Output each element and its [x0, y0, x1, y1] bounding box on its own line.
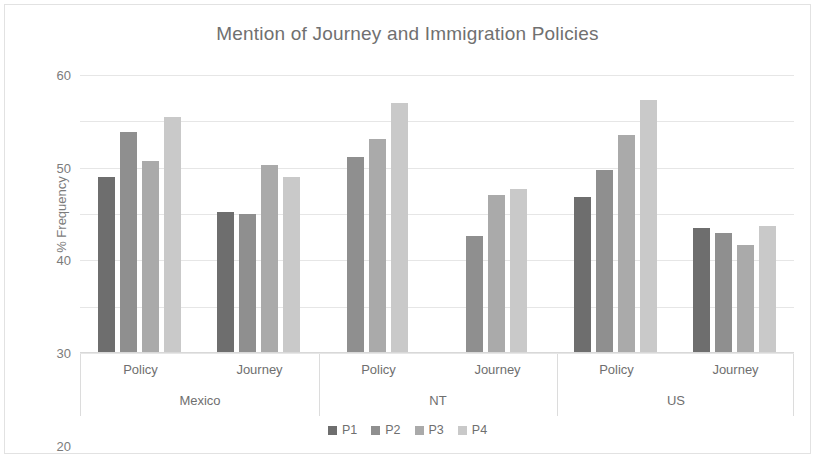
chart-legend: P1P2P3P4: [5, 423, 810, 437]
bar-US-Journey-P1: [693, 228, 710, 353]
category-label-US-Policy: Policy: [557, 354, 676, 385]
bar-NT-Journey-P4: [510, 189, 527, 353]
legend-swatch-P3: [415, 426, 424, 435]
bar-NT-Journey-P2: [466, 236, 483, 353]
legend-label-P2: P2: [385, 423, 400, 437]
bar-Mexico-Policy-P2: [120, 132, 137, 353]
bar-Mexico-Policy-P1: [98, 177, 115, 353]
bar-series-container: [80, 75, 794, 353]
category-axis: PolicyJourneyPolicyJourneyPolicyJourneyM…: [80, 354, 794, 416]
group-label-NT: NT: [319, 385, 557, 416]
legend-swatch-P1: [328, 426, 337, 435]
category-label-NT-Journey: Journey: [438, 354, 557, 385]
y-axis-tick-40: 40: [57, 253, 71, 268]
legend-swatch-P4: [458, 426, 467, 435]
y-axis-title-label: % Frequency: [54, 176, 69, 253]
bar-Mexico-Policy-P3: [142, 161, 159, 353]
y-axis-tick-50: 50: [57, 160, 71, 175]
category-label-NT-Policy: Policy: [319, 354, 438, 385]
legend-label-P3: P3: [429, 423, 444, 437]
axis-baseline: [80, 352, 794, 353]
bar-US-Policy-P4: [640, 100, 657, 353]
chart-title: Mention of Journey and Immigration Polic…: [5, 23, 810, 45]
legend-item-P3[interactable]: P3: [415, 423, 444, 437]
legend-label-P4: P4: [472, 423, 487, 437]
legend-item-P1[interactable]: P1: [328, 423, 357, 437]
bar-Mexico-Journey-P4: [283, 177, 300, 353]
bar-US-Policy-P2: [596, 170, 613, 353]
bar-Mexico-Policy-P4: [164, 117, 181, 353]
bar-US-Journey-P3: [737, 245, 754, 353]
chart-container: Mention of Journey and Immigration Polic…: [4, 4, 811, 454]
y-axis-tick-20: 20: [57, 438, 71, 453]
bar-US-Journey-P2: [715, 233, 732, 353]
bar-NT-Policy-P3: [369, 139, 386, 353]
plot-area: 0102030405060: [80, 75, 794, 353]
bar-US-Policy-P1: [574, 197, 591, 353]
bar-US-Journey-P4: [759, 226, 776, 353]
bar-NT-Journey-P3: [488, 195, 505, 353]
bar-US-Policy-P3: [618, 135, 635, 353]
category-label-Mexico-Journey: Journey: [200, 354, 319, 385]
legend-item-P2[interactable]: P2: [371, 423, 400, 437]
bar-Mexico-Journey-P3: [261, 165, 278, 353]
bar-NT-Policy-P4: [391, 103, 408, 353]
bar-NT-Policy-P2: [347, 157, 364, 353]
legend-item-P4[interactable]: P4: [458, 423, 487, 437]
group-label-US: US: [557, 385, 795, 416]
category-label-Mexico-Policy: Policy: [81, 354, 200, 385]
legend-swatch-P2: [371, 426, 380, 435]
bar-Mexico-Journey-P1: [217, 212, 234, 353]
y-axis-tick-30: 30: [57, 346, 71, 361]
y-axis-tick-60: 60: [57, 68, 71, 83]
bar-Mexico-Journey-P2: [239, 214, 256, 353]
group-label-Mexico: Mexico: [81, 385, 319, 416]
legend-label-P1: P1: [342, 423, 357, 437]
category-label-US-Journey: Journey: [676, 354, 795, 385]
